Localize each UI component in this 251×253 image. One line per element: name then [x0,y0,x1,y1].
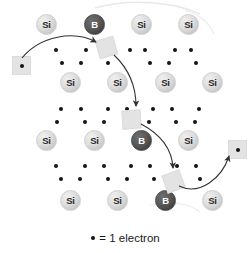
electron-dot [83,120,87,124]
atom-label: Si [208,77,217,88]
electron-dot [84,48,88,52]
boron-atom: B [131,130,152,151]
atom-label: Si [113,195,122,206]
electron-dot [198,177,202,181]
doping-diagram: SiBSiSiSiSiSiSiSiSiBSiSiSiBSi = 1 electr… [0,0,251,253]
electron-dot [167,61,171,65]
electron-dot [189,48,193,52]
electron-dot [59,107,63,111]
hole-free-left [12,56,31,75]
atom-label: B [91,19,98,30]
legend-text: = 1 electron [99,232,159,244]
electron-dot [197,107,201,111]
electron-dot [125,177,129,181]
electron-dot [102,164,106,168]
silicon-atom: Si [36,14,57,35]
atom-label: Si [42,135,51,146]
electron-dot [193,120,197,124]
atom-label: Si [208,195,217,206]
silicon-atom: Si [178,130,199,151]
silicon-atom: Si [178,14,199,35]
atom-label: B [162,195,169,206]
boron-atom: B [155,190,176,211]
electron-dot [194,61,198,65]
electron-dot [106,177,110,181]
electron-dot [129,164,133,168]
silicon-atom: Si [60,72,81,93]
electron-dot [143,48,147,52]
electron-dot [175,164,179,168]
silicon-atom: Si [60,190,81,211]
silicon-atom: Si [36,130,57,151]
electron-dot [55,120,59,124]
hole-free-right [228,140,247,159]
electron-dot [79,107,83,111]
silicon-atom: Si [202,190,223,211]
electron-dot [83,164,87,168]
atom-label: Si [90,135,99,146]
electron-dot [152,177,156,181]
electron-dot [194,164,198,168]
electron-dot [54,48,58,52]
legend-caption: = 1 electron [0,232,251,244]
atom-label: Si [66,195,75,206]
silicon-atom: Si [131,14,152,35]
electron-dot [174,120,178,124]
atom-label: Si [113,77,122,88]
electron-dot [151,107,155,111]
atom-label: Si [184,135,193,146]
silicon-atom: Si [107,190,128,211]
atom-label: B [138,135,145,146]
silicon-atom: Si [155,72,176,93]
silicon-atom: Si [202,72,223,93]
electron-dot [106,107,110,111]
electron-dot [173,48,177,52]
electron-dot [106,61,110,65]
electron-dot [59,177,63,181]
hole-middle [121,109,141,129]
electron-dot [148,61,152,65]
electron-dot [170,107,174,111]
electron-dot [60,61,64,65]
electron-dot [236,148,240,152]
atom-label: Si [137,19,146,30]
atom-label: Si [66,77,75,88]
electron-dot [147,120,151,124]
electron-dot [78,177,82,181]
atom-label: Si [184,19,193,30]
electron-dot [128,48,132,52]
electron-dot [20,64,24,68]
silicon-atom: Si [107,72,128,93]
silicon-atom: Si [84,130,105,151]
atom-label: Si [42,19,51,30]
electron-dot [102,120,106,124]
boron-atom: B [84,14,105,35]
legend-dot-icon [91,236,95,240]
electron-dot [148,164,152,168]
electron-dot [79,61,83,65]
electron-dot [54,164,58,168]
atom-label: Si [161,77,170,88]
